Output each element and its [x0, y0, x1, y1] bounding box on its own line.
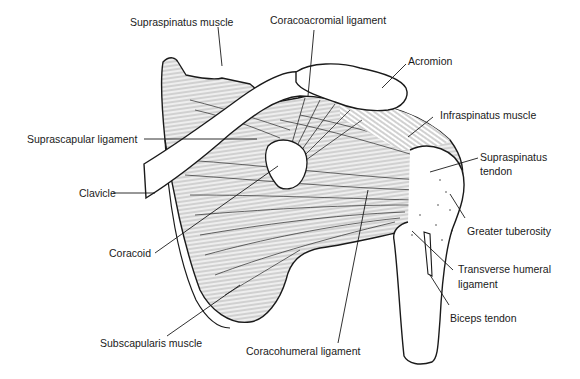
label-suprascapular-ligament: Suprascapular ligament — [27, 133, 137, 146]
label-biceps-tendon: Biceps tendon — [450, 312, 517, 325]
label-supraspinatus-tendon-line1: Supraspinatus — [480, 151, 547, 164]
shoulder-anatomy-diagram: Supraspinatus muscle Coracoacromial liga… — [0, 0, 580, 379]
label-acromion: Acromion — [408, 55, 452, 68]
label-transverse-humeral-ligament-line2: ligament — [458, 278, 498, 291]
label-coracoacromial-ligament: Coracoacromial ligament — [270, 14, 386, 27]
label-infraspinatus-muscle: Infraspinatus muscle — [440, 109, 536, 122]
label-transverse-humeral-ligament-line1: Transverse humeral — [458, 263, 551, 276]
label-greater-tuberosity: Greater tuberosity — [467, 225, 551, 238]
label-coracoid: Coracoid — [109, 247, 151, 260]
label-supraspinatus-tendon-line2: tendon — [480, 165, 512, 178]
label-clavicle: Clavicle — [79, 187, 116, 200]
label-coracohumeral-ligament: Coracohumeral ligament — [246, 345, 360, 358]
label-supraspinatus-muscle: Supraspinatus muscle — [130, 16, 233, 29]
label-subscapularis-muscle: Subscapularis muscle — [100, 337, 202, 350]
